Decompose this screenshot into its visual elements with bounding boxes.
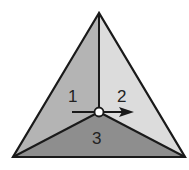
region-2-label: 2 [117, 87, 126, 106]
triangle-diagram: 1 2 3 [0, 0, 189, 170]
region-1-label: 1 [68, 87, 77, 106]
center-point [95, 108, 104, 117]
region-3-label: 3 [92, 129, 101, 148]
